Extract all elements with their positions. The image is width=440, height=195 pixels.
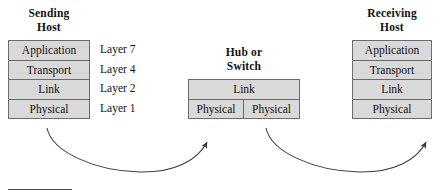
arrow-layer — [0, 0, 440, 195]
arrow-sending-to-device — [47, 128, 207, 172]
arrow-device-to-receiving — [266, 128, 426, 172]
footnote-separator-rule — [8, 189, 72, 190]
